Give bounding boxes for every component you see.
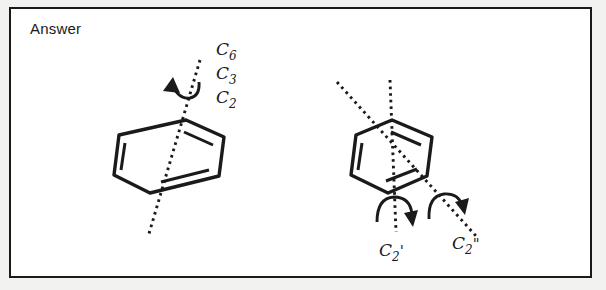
rotation-arrow-head-c2-double-prime bbox=[455, 198, 469, 215]
axis-label-c6: C6 bbox=[216, 39, 237, 63]
principal-axis-structure: C6 C3 C2 bbox=[114, 39, 237, 237]
rotation-arrow-head-c2-prime bbox=[404, 210, 418, 227]
rotation-arrow-head-principal bbox=[163, 77, 180, 93]
axis-label-c3: C3 bbox=[216, 63, 237, 87]
benzene-ring-left bbox=[114, 120, 224, 193]
inner-bond-left-2 bbox=[184, 132, 213, 145]
dotted-axis-line-c2-prime bbox=[390, 80, 396, 232]
secondary-axis-structure: C2' C2" bbox=[337, 80, 480, 264]
axis-label-c2-double-prime: C2" bbox=[452, 233, 480, 257]
axis-label-c2-prime: C2' bbox=[379, 240, 404, 264]
inner-bond-right-2 bbox=[391, 132, 421, 145]
inner-bond-left-1 bbox=[121, 143, 125, 170]
inner-bond-right-1 bbox=[358, 143, 362, 170]
benzene-ring-right bbox=[351, 120, 432, 193]
axis-label-c2: C2 bbox=[216, 87, 237, 111]
ring-outline-left bbox=[114, 120, 224, 193]
rotation-arrow-c2-prime bbox=[377, 197, 418, 227]
figure-panel: Answer C6 C3 C2 bbox=[0, 0, 606, 290]
inner-bond-right-3 bbox=[386, 169, 417, 181]
benzene-symmetry-diagram: C6 C3 C2 bbox=[0, 0, 606, 290]
